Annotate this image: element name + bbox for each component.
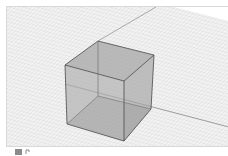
viewport-footer [15,148,30,156]
camera-icon[interactable] [25,149,30,155]
scene-canvas[interactable] [6,6,228,147]
view-icon[interactable] [15,149,22,155]
3d-viewport[interactable] [6,6,228,147]
